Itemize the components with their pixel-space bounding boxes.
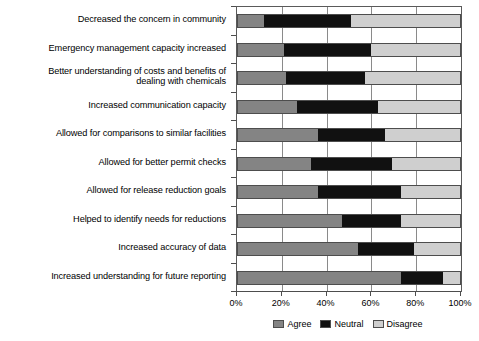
bar-row <box>237 214 461 228</box>
y-tick <box>231 92 236 93</box>
y-tick <box>231 206 236 207</box>
plot-area <box>236 6 462 292</box>
bar-segment-neutral <box>318 128 385 142</box>
bar-row <box>237 242 461 256</box>
chart-legend: AgreeNeutralDisagree <box>236 319 460 329</box>
bar-segment-disagree <box>401 185 461 199</box>
bar-segment-disagree <box>401 214 461 228</box>
category-label-line: Emergency management capacity increased <box>0 43 226 54</box>
legend-swatch-icon <box>273 320 284 328</box>
category-label-line: Increased accuracy of data <box>0 242 226 253</box>
category-label-line: Better understanding of costs and benefi… <box>0 66 226 77</box>
y-tick <box>231 35 236 36</box>
x-axis-line <box>236 291 461 292</box>
bar-segment-disagree <box>371 43 461 57</box>
bar-segment-neutral <box>342 214 400 228</box>
x-tick-label: 100% <box>440 298 479 308</box>
bar-segment-agree <box>237 242 358 256</box>
bar-segment-disagree <box>414 242 461 256</box>
category-label: Allowed for release reduction goals <box>0 185 226 196</box>
x-tick-40 <box>326 292 327 296</box>
bar-segment-agree <box>237 71 286 85</box>
bar-segment-disagree <box>378 100 461 114</box>
category-label: Decreased the concern in community <box>0 14 226 25</box>
y-tick <box>231 63 236 64</box>
legend-item-disagree[interactable]: Disagree <box>373 319 423 329</box>
bar-row <box>237 157 461 171</box>
y-tick <box>231 291 236 292</box>
bar-segment-disagree <box>365 71 461 85</box>
legend-item-neutral[interactable]: Neutral <box>320 319 363 329</box>
x-tick-label: 0% <box>216 298 256 308</box>
bar-segment-agree <box>237 14 264 28</box>
bar-row <box>237 100 461 114</box>
category-label-line: Helped to identify needs for reductions <box>0 214 226 225</box>
y-tick <box>231 6 236 7</box>
x-tick-label: 40% <box>306 298 346 308</box>
category-label-line: dealing with chemicals <box>0 76 226 87</box>
category-label-line: Increased understanding for future repor… <box>0 271 226 282</box>
bar-segment-neutral <box>297 100 378 114</box>
bar-row <box>237 271 461 285</box>
category-label-line: Increased communication capacity <box>0 100 226 111</box>
category-label: Increased accuracy of data <box>0 242 226 253</box>
stacked-bar-chart: Decreased the concern in communityEmerge… <box>0 0 479 341</box>
category-label: Increased communication capacity <box>0 100 226 111</box>
bar-segment-agree <box>237 214 342 228</box>
y-tick <box>231 177 236 178</box>
bar-segment-neutral <box>401 271 444 285</box>
category-label-line: Allowed for better permit checks <box>0 157 226 168</box>
y-tick <box>231 263 236 264</box>
bar-row <box>237 71 461 85</box>
bar-segment-neutral <box>286 71 364 85</box>
bar-segment-agree <box>237 43 284 57</box>
category-label-line: Allowed for comparisons to similar facil… <box>0 128 226 139</box>
bar-segment-agree <box>237 157 311 171</box>
bar-segment-neutral <box>311 157 392 171</box>
category-label: Better understanding of costs and benefi… <box>0 66 226 87</box>
legend-label: Agree <box>287 319 311 329</box>
category-label: Increased understanding for future repor… <box>0 271 226 282</box>
category-label: Allowed for better permit checks <box>0 157 226 168</box>
x-tick-60 <box>370 292 371 296</box>
bar-segment-disagree <box>443 271 461 285</box>
category-axis-labels: Decreased the concern in communityEmerge… <box>0 0 230 290</box>
x-tick-100 <box>460 292 461 296</box>
bar-segment-agree <box>237 185 318 199</box>
bar-segment-disagree <box>392 157 461 171</box>
y-tick <box>231 149 236 150</box>
bar-segment-disagree <box>385 128 461 142</box>
x-tick-label: 60% <box>350 298 390 308</box>
category-label-line: Allowed for release reduction goals <box>0 185 226 196</box>
x-tick-20 <box>281 292 282 296</box>
category-label: Emergency management capacity increased <box>0 43 226 54</box>
y-tick <box>231 234 236 235</box>
bar-segment-neutral <box>318 185 401 199</box>
legend-label: Disagree <box>387 319 423 329</box>
bars-layer <box>237 7 461 292</box>
bar-segment-agree <box>237 271 401 285</box>
legend-label: Neutral <box>334 319 363 329</box>
bar-row <box>237 128 461 142</box>
bar-segment-neutral <box>284 43 371 57</box>
bar-segment-neutral <box>358 242 414 256</box>
bar-segment-neutral <box>264 14 351 28</box>
x-tick-label: 80% <box>395 298 435 308</box>
category-label: Helped to identify needs for reductions <box>0 214 226 225</box>
bar-row <box>237 14 461 28</box>
x-tick-0 <box>236 292 237 296</box>
x-tick-label: 20% <box>261 298 301 308</box>
category-label-line: Decreased the concern in community <box>0 14 226 25</box>
bar-segment-agree <box>237 128 318 142</box>
bar-segment-agree <box>237 100 297 114</box>
bar-segment-disagree <box>351 14 461 28</box>
legend-item-agree[interactable]: Agree <box>273 319 311 329</box>
y-tick <box>231 120 236 121</box>
x-tick-80 <box>415 292 416 296</box>
bar-row <box>237 185 461 199</box>
category-label: Allowed for comparisons to similar facil… <box>0 128 226 139</box>
legend-swatch-icon <box>373 320 384 328</box>
legend-swatch-icon <box>320 320 331 328</box>
bar-row <box>237 43 461 57</box>
